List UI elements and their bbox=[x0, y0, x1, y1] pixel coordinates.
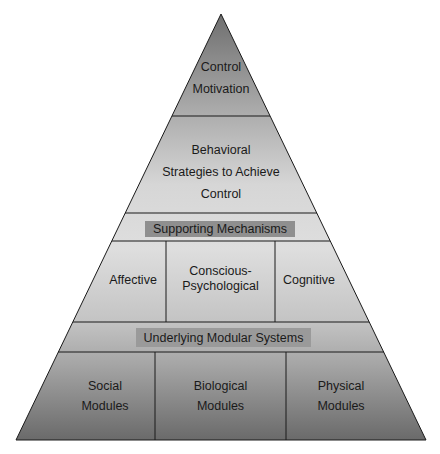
label-line: Modules bbox=[155, 400, 286, 413]
supporting-mechanisms-header: Supporting Mechanisms bbox=[145, 221, 295, 237]
underlying-modular-systems-header: Underlying Modular Systems bbox=[136, 328, 311, 347]
label-line: Modules bbox=[55, 400, 155, 413]
label-line: Conscious- bbox=[166, 264, 275, 279]
cell-conscious-psychological: Conscious- Psychological bbox=[166, 264, 275, 294]
label-line: Physical bbox=[286, 380, 396, 400]
label-line: Psychological bbox=[166, 279, 275, 294]
cell-affective: Affective bbox=[100, 274, 166, 287]
level-control-motivation: Control Motivation bbox=[171, 61, 271, 96]
label-line: Strategies to Achieve bbox=[121, 166, 321, 188]
label-line: Social bbox=[55, 380, 155, 400]
label-line: Behavioral bbox=[121, 144, 321, 166]
cell-biological-modules: Biological Modules bbox=[155, 380, 286, 413]
label-line: Biological bbox=[155, 380, 286, 400]
label-line: Affective bbox=[100, 274, 166, 287]
level-behavioral-strategies: Behavioral Strategies to Achieve Control bbox=[121, 144, 321, 201]
label-line: Cognitive bbox=[275, 274, 343, 287]
cell-physical-modules: Physical Modules bbox=[286, 380, 396, 413]
label-line: Control bbox=[171, 61, 271, 83]
label-line: Control bbox=[121, 188, 321, 201]
label-line: Motivation bbox=[171, 83, 271, 96]
label-line: Modules bbox=[286, 400, 396, 413]
cell-cognitive: Cognitive bbox=[275, 274, 343, 287]
cell-social-modules: Social Modules bbox=[55, 380, 155, 413]
